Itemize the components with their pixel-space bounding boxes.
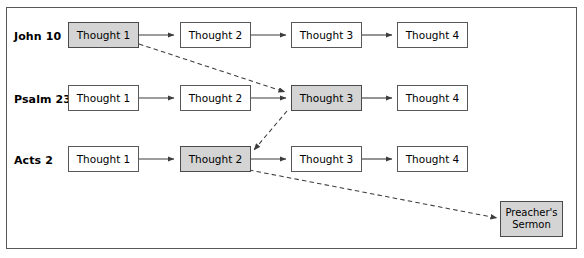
row-label-john-10: John 10 — [14, 31, 61, 42]
node-psalm23-thought-3[interactable]: Thought 3 — [291, 85, 362, 111]
node-label: Thought 3 — [300, 29, 354, 41]
node-john10-thought-4[interactable]: Thought 4 — [397, 22, 468, 48]
node-label: Thought 2 — [189, 92, 243, 104]
node-label: Thought 2 — [189, 153, 243, 165]
node-acts2-thought-2[interactable]: Thought 2 — [180, 146, 251, 172]
node-label: Thought 4 — [406, 153, 460, 165]
row-label-acts-2: Acts 2 — [14, 155, 53, 166]
node-label-line-2: Sermon — [512, 219, 551, 232]
node-label: Thought 1 — [77, 153, 131, 165]
node-label: Thought 3 — [300, 153, 354, 165]
node-preachers-sermon[interactable]: Preacher's Sermon — [500, 201, 563, 237]
node-acts2-thought-4[interactable]: Thought 4 — [397, 146, 468, 172]
node-acts2-thought-3[interactable]: Thought 3 — [291, 146, 362, 172]
row-label-psalm-23: Psalm 23 — [14, 94, 71, 105]
node-label: Thought 1 — [77, 92, 131, 104]
node-john10-thought-2[interactable]: Thought 2 — [180, 22, 251, 48]
node-psalm23-thought-1[interactable]: Thought 1 — [68, 85, 139, 111]
node-label: Thought 3 — [300, 92, 354, 104]
node-john10-thought-1[interactable]: Thought 1 — [68, 22, 139, 48]
diagram-canvas: John 10 Thought 1 Thought 2 Thought 3 Th… — [0, 0, 584, 258]
node-label: Thought 4 — [406, 29, 460, 41]
node-label: Thought 4 — [406, 92, 460, 104]
node-acts2-thought-1[interactable]: Thought 1 — [68, 146, 139, 172]
node-label: Thought 2 — [189, 29, 243, 41]
node-john10-thought-3[interactable]: Thought 3 — [291, 22, 362, 48]
node-psalm23-thought-2[interactable]: Thought 2 — [180, 85, 251, 111]
node-label: Thought 1 — [77, 29, 131, 41]
node-psalm23-thought-4[interactable]: Thought 4 — [397, 85, 468, 111]
node-label-line-1: Preacher's — [505, 207, 557, 220]
